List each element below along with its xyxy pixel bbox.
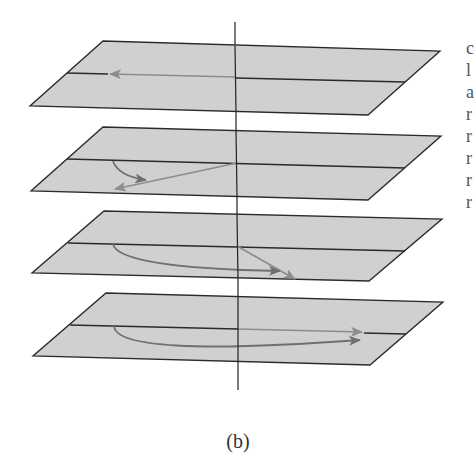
edge-text-fragment: r <box>466 170 472 191</box>
plane-4 <box>33 293 443 365</box>
plane-1-midline-left <box>67 73 108 74</box>
edge-text-fragment: r <box>466 126 472 147</box>
plane-3 <box>32 211 442 281</box>
figure-caption: (b) <box>0 430 476 453</box>
edge-text-fragment: a <box>466 82 474 103</box>
edge-text-fragment: c <box>466 38 474 59</box>
plane-4-midline-right <box>364 333 406 334</box>
plane-2 <box>31 127 441 200</box>
rotation-diagram <box>0 0 476 465</box>
edge-text-fragment: r <box>466 104 472 125</box>
edge-text-fragment: r <box>466 148 472 169</box>
edge-text-fragment: l <box>466 60 471 81</box>
edge-text-fragment: r <box>466 192 472 213</box>
plane-1 <box>30 41 440 115</box>
